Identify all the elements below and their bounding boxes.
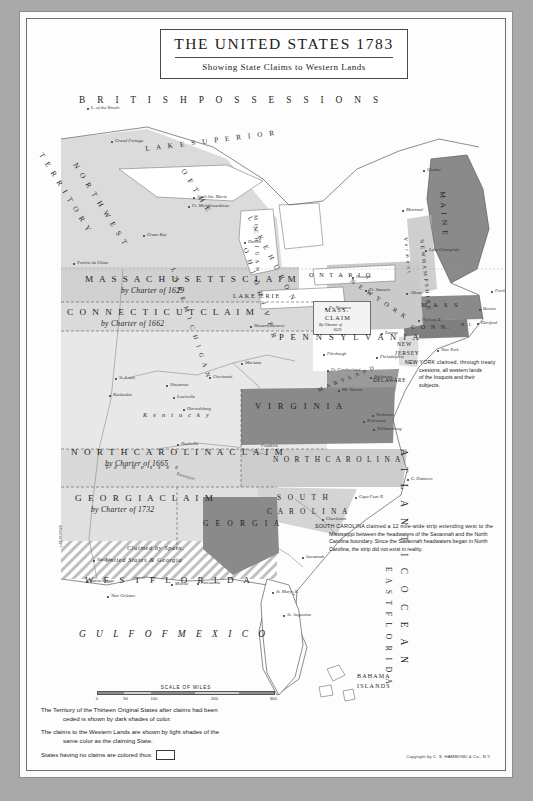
city-label: New Orleans (111, 593, 135, 598)
city-dot-icon (109, 395, 111, 397)
city-label: Cape Fear R. (359, 494, 384, 499)
city-label: C. Hatteras (411, 476, 432, 481)
page-title: THE UNITED STATES 1783 (165, 35, 403, 53)
city-dot-icon (87, 108, 89, 110)
city-label: Ft. Cumberland (331, 367, 360, 372)
city-dot-icon (193, 197, 195, 199)
scale-tick-0: 0 (96, 696, 98, 701)
city-label: St. Louis (119, 375, 135, 380)
city-label: Green Bay (147, 232, 167, 237)
city-dot-icon (365, 290, 367, 292)
map-field: THE UNITED STATES 1783 Showing State Cla… (27, 19, 505, 770)
title-divider (175, 57, 393, 58)
city-dot-icon (272, 592, 274, 594)
scale-bar-block: SCALE OF MILES 0 50 100 200 300 (97, 685, 275, 700)
map-legend: SCALE OF MILES 0 50 100 200 300 (41, 685, 341, 760)
city-label: Montreal (406, 207, 423, 212)
city-dot-icon (244, 242, 246, 244)
city-label: Western Reserve (254, 323, 284, 328)
scale-tick-4: 300 (270, 696, 277, 701)
city-dot-icon (241, 363, 243, 365)
city-dot-icon (173, 397, 175, 399)
south-carolina-note: SOUTH CAROLINA claimed a 12 mile-wide st… (315, 523, 505, 553)
city-label: Vincennes (170, 382, 189, 387)
legend-no-claim-row: States having no claims are colored thus… (41, 750, 341, 760)
new-york-note-line-0: NEW YORK claimed, through treaty (405, 359, 496, 365)
city-dot-icon (406, 293, 408, 295)
new-york-note-line-1: cessions, all western lands (405, 367, 505, 375)
city-dot-icon (183, 409, 185, 411)
screenshot-canvas: THE UNITED STATES 1783 Showing State Cla… (0, 0, 533, 801)
city-label: Portland (495, 288, 505, 293)
city-dot-icon (166, 385, 168, 387)
city-label: Ft. Michilimackinac (192, 203, 229, 208)
city-dot-icon (479, 309, 481, 311)
city-dot-icon (143, 235, 145, 237)
scale-graphic: 0 50 100 200 300 (97, 691, 275, 700)
city-dot-icon (376, 357, 378, 359)
city-label: Pensacola (201, 580, 220, 585)
city-dot-icon (352, 277, 354, 279)
city-dot-icon (423, 170, 425, 172)
city-label: Detroit (248, 239, 261, 244)
city-label: L. of the Woods (91, 105, 119, 110)
city-label: Baton Rouge (90, 578, 114, 583)
city-dot-icon (86, 581, 88, 583)
city-dot-icon (188, 206, 190, 208)
city-dot-icon (437, 350, 439, 352)
city-label: Prairie du Chien (77, 260, 108, 265)
south-carolina-note-line-3: Carolina, the strip did not exist in rea… (315, 546, 505, 554)
city-label: Quebec (427, 167, 441, 172)
city-label: Philadelphia (380, 354, 404, 359)
city-label: Easton (385, 330, 398, 335)
scale-title: SCALE OF MILES (97, 685, 275, 690)
city-label: Richmond (367, 418, 386, 423)
city-dot-icon (323, 354, 325, 356)
city-dot-icon (302, 557, 304, 559)
city-dot-icon (381, 333, 383, 335)
city-dot-icon (407, 479, 409, 481)
city-dot-icon (402, 210, 404, 212)
city-dot-icon (477, 323, 479, 325)
city-label: Grand Portage (115, 138, 143, 143)
city-dot-icon (327, 370, 329, 372)
scale-tick-1: 50 (123, 696, 128, 701)
city-label: Charleston (326, 516, 346, 521)
legend-line-0: The Territory of the Thirteen Original S… (41, 706, 218, 713)
city-dot-icon (373, 429, 375, 431)
city-label: Albany (410, 290, 423, 295)
legend-paragraph-1: The Territory of the Thirteen Original S… (41, 705, 341, 724)
city-dot-icon (209, 377, 211, 379)
page-subtitle: Showing State Claims to Western Lands (165, 62, 403, 72)
city-dot-icon (370, 377, 372, 379)
city-dot-icon (197, 583, 199, 585)
legend-line-1: ceded is shown by dark shades of color. (41, 714, 341, 724)
city-dot-icon (325, 308, 327, 310)
city-label: Oswego (356, 274, 371, 279)
city-dot-icon (418, 320, 420, 322)
city-label: Hartford (481, 320, 497, 325)
city-label: Ft. Niagara (329, 305, 351, 310)
new-york-note: NEW YORK claimed, through treaty cession… (405, 359, 505, 389)
city-label: Kaskaskia (113, 392, 132, 397)
city-label: Sault Ste. Marie (197, 194, 227, 199)
city-label: Nashville (181, 441, 198, 446)
map-geometry-layer (27, 19, 505, 770)
city-label: Harrodsburg (187, 406, 211, 411)
city-dot-icon (250, 326, 252, 328)
south-carolina-note-line-2: Carolina boundary. Since the Savannah he… (315, 538, 505, 546)
city-label: Yorktown (376, 412, 393, 417)
city-dot-icon (363, 421, 365, 423)
city-label: Cincinnati (213, 374, 232, 379)
new-york-note-line-2: of the Iroquois and their (405, 374, 505, 382)
city-dot-icon (355, 497, 357, 499)
city-dot-icon (322, 519, 324, 521)
south-carolina-note-line-1: Mississippi between the headwaters of th… (315, 531, 505, 539)
city-label: Hudson R. (422, 317, 441, 322)
city-label: Louisville (177, 394, 195, 399)
legend-no-claim-swatch (156, 750, 175, 760)
city-dot-icon (338, 390, 340, 392)
scale-bar (97, 691, 275, 695)
map-sheet: THE UNITED STATES 1783 Showing State Cla… (20, 12, 512, 777)
south-carolina-note-line-0: SOUTH CAROLINA claimed a 12 mile-wide st… (315, 523, 493, 529)
